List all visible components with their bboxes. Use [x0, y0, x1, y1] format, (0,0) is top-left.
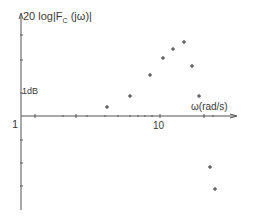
y-axis-label-tail: (jω)| — [68, 10, 92, 22]
y-axis-label: 20 log|FC (jω)| — [23, 10, 92, 22]
x-tick-label-1: 1 — [12, 118, 18, 130]
x-tick-label-10: 10 — [153, 120, 164, 131]
y-tick-label-1db: 1dB — [22, 86, 38, 96]
point-marker — [213, 187, 217, 191]
x-axis-label: ω(rad/s) — [191, 101, 228, 112]
point-marker — [148, 73, 152, 77]
point-marker — [161, 56, 165, 60]
point-marker — [182, 40, 186, 44]
point-marker — [128, 94, 132, 98]
point-marker — [197, 94, 201, 98]
y-axis-label-subscript: C — [63, 17, 68, 24]
point-marker — [105, 105, 109, 109]
point-marker — [171, 47, 175, 51]
point-marker — [190, 64, 194, 68]
y-axis-label-main: 20 log|F — [23, 10, 63, 22]
point-marker — [208, 165, 212, 169]
